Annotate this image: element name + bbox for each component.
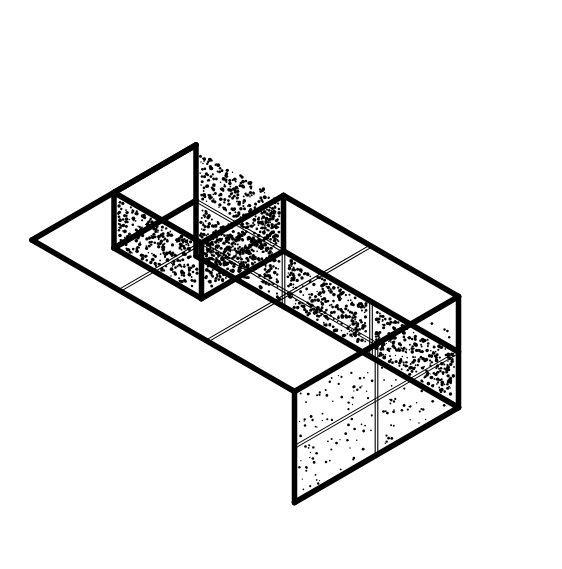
figure-canvas	[0, 0, 562, 569]
isometric-block-svg	[0, 0, 562, 569]
